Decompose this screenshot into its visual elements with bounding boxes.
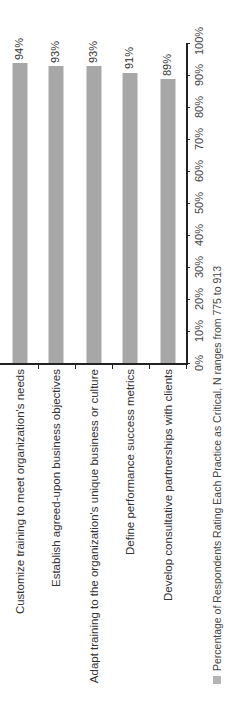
category-axis [0,364,187,366]
category-label: Establish agreed-upon business objective… [50,369,62,587]
tick-label: 100% [193,27,205,55]
value-tick [186,299,190,300]
value-tick [186,363,190,364]
tick-label: 50% [193,192,205,214]
category-label: Develop consultative partnerships with c… [162,369,174,601]
value-axis [186,43,188,365]
data-label: 93% [49,41,61,63]
category-tick [149,365,150,369]
bar [87,66,102,364]
tick-label: 70% [193,128,205,150]
category-tick [112,365,113,369]
category-label: Customize training to meet organization'… [14,369,26,614]
tick-label: 30% [193,256,205,278]
data-label: 91% [123,47,135,69]
bar [13,63,28,364]
bar [123,73,138,364]
data-label: 93% [87,41,99,63]
category-tick [186,365,187,369]
value-tick [186,203,190,204]
value-tick [186,267,190,268]
value-tick [186,139,190,140]
value-tick [186,235,190,236]
category-tick [75,365,76,369]
tick-label: 90% [193,64,205,86]
tick-label: 40% [193,224,205,246]
tick-label: 80% [193,96,205,118]
data-label: 94% [13,38,25,60]
value-tick [186,171,190,172]
bar [161,79,176,364]
legend: Percentage of Respondents Rating Each Pr… [211,266,223,684]
legend-swatch [213,676,221,684]
value-tick [186,107,190,108]
bar [49,66,64,364]
tick-label: 20% [193,288,205,310]
value-tick [186,75,190,76]
value-tick [186,43,190,44]
value-tick [186,331,190,332]
legend-label: Percentage of Respondents Rating Each Pr… [211,266,223,671]
bar-chart: Customize training to meet organization'… [0,0,230,716]
tick-label: 60% [193,160,205,182]
category-tick [38,365,39,369]
category-label: Adapt training to the organization's uni… [88,369,100,683]
tick-label: 10% [193,320,205,342]
tick-label: 0% [193,355,205,371]
category-label: Define performance success metrics [124,369,136,555]
data-label: 89% [161,54,173,76]
